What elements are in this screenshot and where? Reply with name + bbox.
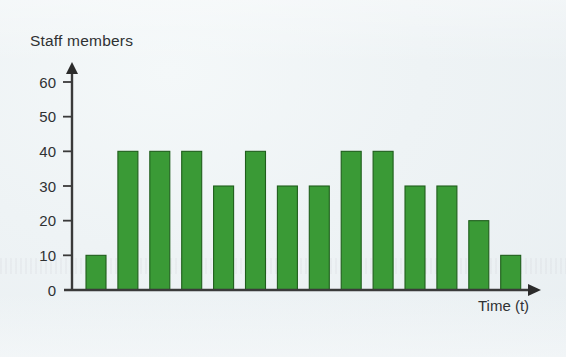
- y-axis-tick-label: 30: [39, 178, 56, 195]
- bars-group: [86, 151, 521, 290]
- bar: [501, 255, 521, 290]
- bar: [405, 186, 425, 290]
- bar: [341, 151, 361, 290]
- bar: [86, 255, 106, 290]
- bar: [214, 186, 234, 290]
- y-axis-ticks-group: [63, 82, 71, 255]
- y-axis-tick-label: 50: [39, 108, 56, 125]
- bar: [150, 151, 170, 290]
- bar: [182, 151, 202, 290]
- y-axis-tick-label: 60: [39, 74, 56, 91]
- y-axis-tick-label: 10: [39, 247, 56, 264]
- bar: [246, 151, 266, 290]
- bar: [437, 186, 457, 290]
- bar: [373, 151, 393, 290]
- y-axis-tick-label: 20: [39, 212, 56, 229]
- bar: [309, 186, 329, 290]
- chart-plot-area: 0102030405060: [0, 0, 566, 357]
- x-axis-arrow-icon: [528, 284, 541, 296]
- bar-chart-figure: Staff members Time (t) 0102030405060: [0, 0, 566, 357]
- y-axis-tick-label: 0: [48, 282, 56, 299]
- y-axis-arrow-icon: [66, 62, 78, 74]
- y-axis-tick-labels-group: 0102030405060: [39, 74, 56, 299]
- bar: [118, 151, 138, 290]
- bar: [469, 221, 489, 290]
- y-axis-tick-label: 40: [39, 143, 56, 160]
- bar: [277, 186, 297, 290]
